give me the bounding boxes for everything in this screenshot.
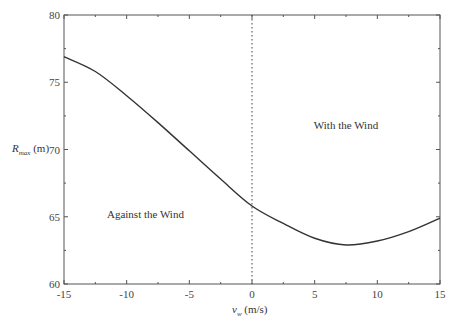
x-tick-label: -5: [185, 288, 195, 300]
y-tick-label: 65: [49, 211, 61, 223]
y-tick-label: 80: [49, 9, 61, 21]
y-tick-label: 60: [49, 278, 61, 290]
x-tick-label: -10: [119, 288, 134, 300]
annotations: With the WindAgainst the Wind: [107, 119, 379, 220]
x-tick-label: 0: [249, 288, 255, 300]
x-axis-label-unit: (m/s): [242, 303, 268, 316]
x-axis-label: vw (m/s): [232, 303, 268, 318]
y-tick-label: 75: [49, 76, 61, 88]
annotation-label: Against the Wind: [107, 208, 184, 220]
x-tick-label: 10: [372, 288, 384, 300]
x-tick-label: 5: [312, 288, 318, 300]
x-tick-label: 15: [435, 288, 447, 300]
annotation-label: With the Wind: [314, 119, 379, 131]
line-chart: -15-10-50510156065707580 With the WindAg…: [0, 0, 452, 326]
y-axis-label: Rmax (m): [11, 142, 49, 157]
y-axis-label-unit: (m): [30, 142, 49, 155]
y-tick-label: 70: [49, 144, 61, 156]
y-axis-label-sub: max: [19, 149, 32, 157]
axis-ticks: -15-10-50510156065707580: [49, 9, 446, 300]
